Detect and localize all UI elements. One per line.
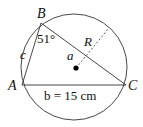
side-c-label: c — [20, 48, 26, 61]
angle-b-label: 51° — [37, 32, 55, 45]
side-a-label: a — [67, 49, 74, 62]
geometry-figure — [0, 0, 143, 127]
vertex-b-label: B — [37, 7, 46, 21]
radius-label: R — [84, 35, 92, 48]
center-dot — [73, 65, 78, 70]
diagram: B A C 51° c a R b = 15 cm — [0, 0, 143, 127]
vertex-a-label: A — [8, 79, 17, 93]
side-b-label: b = 15 cm — [44, 89, 96, 102]
radius-line — [76, 28, 109, 68]
vertex-c-label: C — [128, 79, 137, 93]
